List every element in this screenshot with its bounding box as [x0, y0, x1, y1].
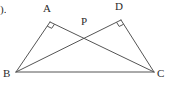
segment-BA — [16, 22, 50, 72]
geometry-figure: ). ADPBC — [0, 0, 172, 87]
segment-group — [16, 20, 154, 72]
segment-BD — [16, 20, 121, 72]
vertex-label-A: A — [43, 3, 51, 14]
vertex-label-C: C — [157, 68, 164, 79]
vertex-label-D: D — [115, 1, 123, 12]
vertex-label-P: P — [81, 16, 87, 27]
figure-canvas — [0, 0, 172, 87]
vertex-label-B: B — [3, 68, 10, 79]
